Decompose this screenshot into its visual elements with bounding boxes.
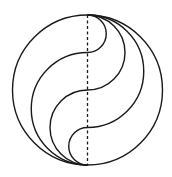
s-curve-circle-diagram bbox=[0, 0, 172, 177]
diagram-canvas bbox=[0, 0, 172, 177]
